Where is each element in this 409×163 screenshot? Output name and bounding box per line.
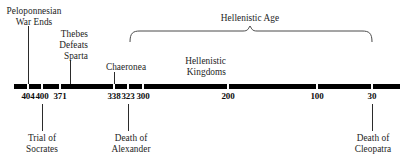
connector-death-of-alexander (128, 104, 129, 131)
event-label-peloponnesian-war-ends: Peloponnesian War Ends (7, 6, 62, 28)
axis-tick-323 (127, 84, 129, 89)
tick-label-371: 371 (53, 91, 66, 101)
timeline-figure: Peloponnesian War Ends Thebes Defeats Sp… (0, 0, 409, 163)
event-label-trial-of-socrates: Trial of Socrates (26, 133, 58, 155)
tick-label-300: 300 (136, 91, 149, 101)
span-label-hellenistic-age: Hellenistic Age (221, 13, 279, 24)
event-label-thebes-defeats-sparta: Thebes Defeats Sparta (59, 29, 88, 62)
event-label-line: Cleopatra (355, 144, 392, 155)
tick-label-400: 400 (35, 91, 48, 101)
tick-label-338: 338 (107, 91, 120, 101)
axis-tick-30 (371, 84, 373, 89)
region-label-line: Kingdoms (185, 67, 226, 78)
event-label-death-of-alexander: Death of Alexander (111, 133, 150, 155)
axis-tick-371 (59, 84, 61, 89)
tick-label-100: 100 (310, 91, 323, 101)
event-label-line: Death of (111, 133, 150, 144)
span-label-text: Hellenistic Age (221, 13, 279, 24)
brace-path (130, 26, 372, 42)
connector-thebes-defeats-sparta (70, 60, 71, 86)
event-label-line: Socrates (26, 144, 58, 155)
event-label-line: Chaeronea (106, 62, 146, 73)
axis-tick-404 (27, 84, 29, 89)
connector-peloponnesian-war-ends (28, 26, 29, 86)
axis-tick-200 (227, 84, 229, 89)
event-label-line: Death of (355, 133, 392, 144)
event-label-line: Sparta (59, 51, 88, 62)
event-label-line: War Ends (7, 17, 62, 28)
connector-death-of-cleopatra (372, 104, 373, 131)
event-label-line: Trial of (26, 133, 58, 144)
tick-label-404: 404 (21, 91, 34, 101)
axis-tick-400 (41, 84, 43, 89)
event-label-line: Peloponnesian (7, 6, 62, 17)
tick-label-200: 200 (221, 91, 234, 101)
timeline-axis (14, 84, 400, 89)
axis-tick-100 (316, 84, 318, 89)
axis-tick-300 (142, 84, 144, 89)
event-label-death-of-cleopatra: Death of Cleopatra (355, 133, 392, 155)
event-label-line: Thebes (59, 29, 88, 40)
event-label-line: Alexander (111, 144, 150, 155)
region-label-line: Hellenistic (185, 56, 226, 67)
event-label-chaeronea: Chaeronea (106, 62, 146, 73)
connector-trial-of-socrates (42, 104, 43, 131)
axis-tick-338 (113, 84, 115, 89)
event-label-line: Defeats (59, 40, 88, 51)
region-label-hellenistic-kingdoms: Hellenistic Kingdoms (185, 56, 226, 78)
tick-label-323: 323 (121, 91, 134, 101)
tick-label-30: 30 (368, 91, 377, 101)
